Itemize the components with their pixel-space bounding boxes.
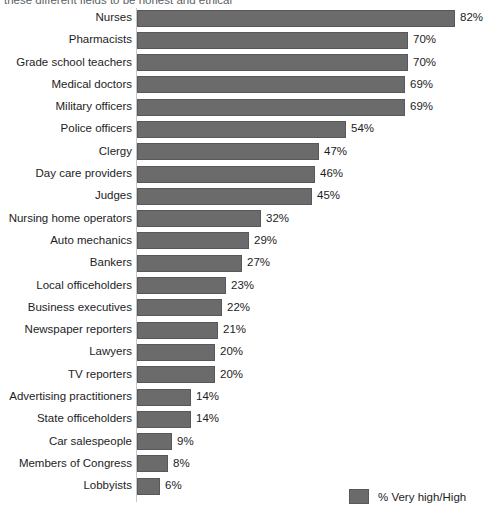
bar-track bbox=[137, 433, 172, 450]
bar-row: Grade school teachers70% bbox=[0, 53, 489, 75]
bar-value-label: 69% bbox=[410, 99, 433, 114]
bar-track bbox=[137, 54, 408, 71]
bar bbox=[137, 478, 160, 495]
bar bbox=[137, 389, 191, 406]
bar-value-label: 14% bbox=[196, 411, 219, 426]
bar-category-label: Advertising practitioners bbox=[0, 389, 132, 404]
bar-row: Newspaper reporters21% bbox=[0, 320, 489, 342]
bar bbox=[137, 344, 215, 361]
bar-value-label: 22% bbox=[227, 300, 250, 315]
bar-track bbox=[137, 143, 319, 160]
bar-category-label: Day care providers bbox=[0, 166, 132, 181]
bar-row: Lawyers20% bbox=[0, 342, 489, 364]
bar-track bbox=[137, 411, 191, 428]
bar-category-label: State officeholders bbox=[0, 411, 132, 426]
bar bbox=[137, 277, 226, 294]
bar-value-label: 45% bbox=[317, 188, 340, 203]
bar-track bbox=[137, 277, 226, 294]
bar-category-label: Newspaper reporters bbox=[0, 322, 132, 337]
bar-row: Day care providers46% bbox=[0, 164, 489, 186]
bar bbox=[137, 210, 261, 227]
bar-row: Car salespeople9% bbox=[0, 432, 489, 454]
bar-track bbox=[137, 366, 215, 383]
bar-value-label: 21% bbox=[223, 322, 246, 337]
bar bbox=[137, 322, 218, 339]
bar-row: Clergy47% bbox=[0, 142, 489, 164]
bar-category-label: Auto mechanics bbox=[0, 233, 132, 248]
bar-row: Business executives22% bbox=[0, 298, 489, 320]
bar-track bbox=[137, 76, 405, 93]
bar-category-label: TV reporters bbox=[0, 367, 132, 382]
bar bbox=[137, 99, 405, 116]
bar bbox=[137, 166, 315, 183]
bar-category-label: Business executives bbox=[0, 300, 132, 315]
bar bbox=[137, 433, 172, 450]
bar-row: Local officeholders23% bbox=[0, 276, 489, 298]
bar bbox=[137, 366, 215, 383]
bar-track bbox=[137, 188, 312, 205]
bar bbox=[137, 76, 405, 93]
bar-category-label: Car salespeople bbox=[0, 434, 132, 449]
bar-value-label: 23% bbox=[231, 278, 254, 293]
bar-value-label: 20% bbox=[220, 367, 243, 382]
bar-row: Medical doctors69% bbox=[0, 75, 489, 97]
bar bbox=[137, 32, 408, 49]
bar bbox=[137, 411, 191, 428]
bar-category-label: Bankers bbox=[0, 255, 132, 270]
bar-track bbox=[137, 32, 408, 49]
bar-row: Police officers54% bbox=[0, 119, 489, 141]
bar-category-label: Nurses bbox=[0, 10, 132, 25]
bar-chart: these different fields to be honest and … bbox=[0, 0, 489, 517]
bar-track bbox=[137, 166, 315, 183]
plot-area: Nurses82%Pharmacists70%Grade school teac… bbox=[0, 8, 489, 506]
bar bbox=[137, 255, 242, 272]
bar bbox=[137, 143, 319, 160]
bar-row: Military officers69% bbox=[0, 97, 489, 119]
legend-swatch-icon bbox=[349, 489, 369, 504]
bar-category-label: Medical doctors bbox=[0, 77, 132, 92]
bar-category-label: Nursing home operators bbox=[0, 211, 132, 226]
bar-value-label: 14% bbox=[196, 389, 219, 404]
chart-caption: these different fields to be honest and … bbox=[4, 0, 334, 7]
bar-value-label: 29% bbox=[254, 233, 277, 248]
bar-track bbox=[137, 478, 160, 495]
bar-value-label: 46% bbox=[320, 166, 343, 181]
bar-value-label: 9% bbox=[177, 434, 194, 449]
bar-track bbox=[137, 389, 191, 406]
bar-track bbox=[137, 210, 261, 227]
bar-row: State officeholders14% bbox=[0, 409, 489, 431]
bar-row-list: Nurses82%Pharmacists70%Grade school teac… bbox=[0, 8, 489, 499]
bar-category-label: Local officeholders bbox=[0, 278, 132, 293]
bar-row: Judges45% bbox=[0, 186, 489, 208]
bar-track bbox=[137, 99, 405, 116]
bar-track bbox=[137, 455, 168, 472]
bar-category-label: Police officers bbox=[0, 121, 132, 136]
bar-value-label: 47% bbox=[324, 144, 347, 159]
bar-value-label: 70% bbox=[413, 55, 436, 70]
bar-value-label: 70% bbox=[413, 32, 436, 47]
bar-category-label: Clergy bbox=[0, 144, 132, 159]
bar-value-label: 8% bbox=[173, 456, 190, 471]
bar-row: TV reporters20% bbox=[0, 365, 489, 387]
bar-track bbox=[137, 255, 242, 272]
bar-row: Nurses82% bbox=[0, 8, 489, 30]
bar-value-label: 82% bbox=[460, 10, 483, 25]
bar bbox=[137, 121, 346, 138]
bar bbox=[137, 54, 408, 71]
bar-category-label: Lawyers bbox=[0, 344, 132, 359]
bar-value-label: 6% bbox=[165, 478, 182, 493]
bar-track bbox=[137, 10, 455, 27]
bar-category-label: Judges bbox=[0, 188, 132, 203]
bar-category-label: Military officers bbox=[0, 99, 132, 114]
bar-value-label: 69% bbox=[410, 77, 433, 92]
bar-track bbox=[137, 299, 222, 316]
bar bbox=[137, 299, 222, 316]
bar-category-label: Lobbyists bbox=[0, 478, 132, 493]
bar-track bbox=[137, 232, 249, 249]
bar-track bbox=[137, 344, 215, 361]
bar-value-label: 20% bbox=[220, 344, 243, 359]
bar-row: Advertising practitioners14% bbox=[0, 387, 489, 409]
bar bbox=[137, 10, 455, 27]
bar bbox=[137, 455, 168, 472]
bar-value-label: 54% bbox=[351, 121, 374, 136]
